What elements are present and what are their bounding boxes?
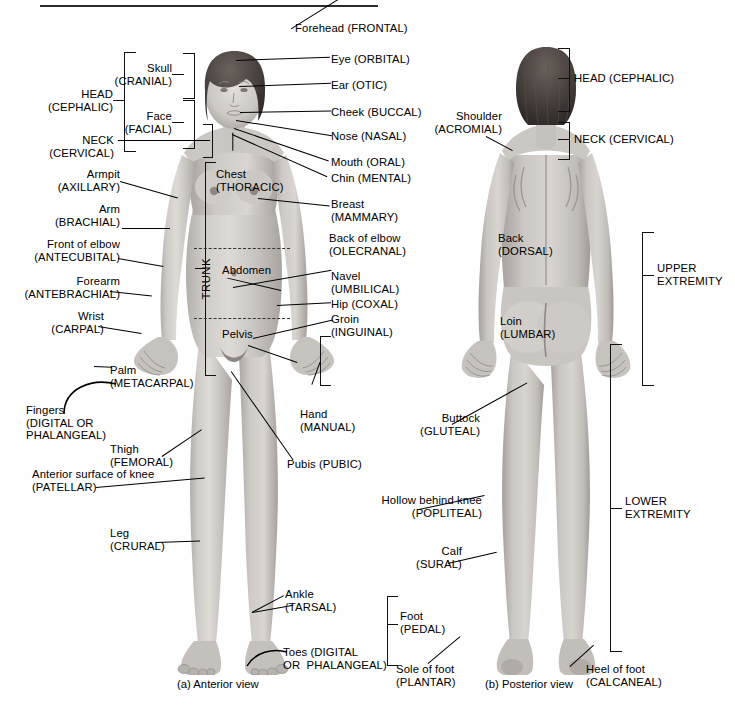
label-sole-of-foot: Sole of foot (PLANTAR) [396, 663, 456, 688]
bracket-neck-cervical-posterior-tick [558, 139, 570, 140]
label-hollow-behind-knee: Hollow behind knee (POPLITEAL) [345, 494, 482, 519]
leader-neck-cervical-anterior [118, 140, 210, 141]
caption-posterior: (b) Posterior view [485, 678, 573, 690]
label-calf-sural: Calf (SURAL) [396, 545, 462, 570]
bracket-hand-manual [320, 336, 331, 386]
bracket-neck-cervical-anterior [203, 124, 213, 158]
bracket-lower-extremity-tick [610, 508, 622, 509]
bracket-head-cephalic-posterior-tick [558, 78, 570, 79]
bracket-lower-extremity [610, 344, 622, 652]
label-lower-extremity: LOWER EXTREMITY [625, 495, 691, 520]
bracket-head-cephalic-tick [113, 100, 125, 101]
label-eye: Eye (ORBITAL) [331, 53, 410, 66]
label-front-of-elbow: Front of elbow (ANTECUBITAL) [10, 238, 120, 263]
divider-thorax-abdomen [194, 248, 290, 249]
bracket-face-facial-tick [172, 122, 184, 123]
bracket-upper-extremity-tick [642, 275, 654, 276]
label-groin: Groin (INGUINAL) [331, 313, 393, 338]
label-arm: Arm (BRACHIAL) [28, 203, 120, 228]
bracket-foot-pedal-tick [387, 624, 398, 625]
label-chin: Chin (MENTAL) [331, 172, 411, 185]
label-shoulder-acromial: Shoulder (ACROMIAL) [422, 110, 502, 135]
label-chest-thoracic: Chest (THORACIC) [216, 168, 284, 193]
caption-anterior: (a) Anterior view [177, 678, 259, 690]
bracket-foot-pedal [387, 596, 398, 666]
label-leg: Leg (CRURAL) [110, 527, 165, 552]
bracket-face-facial [183, 100, 195, 149]
leader-toes-arc [245, 644, 291, 674]
label-heel-of-foot: Heel of foot (CALCANEAL) [586, 663, 662, 688]
label-forehead: Forehead (FRONTAL) [295, 22, 408, 35]
label-nose: Nose (NASAL) [331, 130, 406, 143]
label-hand-manual: Hand (MANUAL) [300, 408, 355, 433]
label-anterior-surface-of-knee: Anterior surface of knee (PATELLAR) [32, 468, 154, 493]
label-trunk: TRUNK [200, 258, 212, 299]
label-wrist: Wrist (CARPAL) [24, 310, 104, 335]
anatomical-regions-figure: HEAD (CEPHALIC) Skull (CRANIAL) Face (FA… [0, 0, 735, 708]
label-back-of-elbow: Back of elbow (OLECRANAL) [329, 232, 406, 257]
label-breast: Breast (MAMMARY) [331, 198, 398, 223]
label-skull-cranial: Skull (CRANIAL) [100, 62, 172, 87]
label-toes: Toes (DIGITAL OR PHALANGEAL) [283, 646, 387, 671]
label-mouth: Mouth (ORAL) [331, 156, 405, 169]
label-navel: Navel (UMBILICAL) [331, 270, 399, 295]
bracket-head-cephalic-posterior [558, 48, 570, 112]
label-pubis: Pubis (PUBIC) [287, 458, 362, 471]
bracket-skull-cranial [183, 53, 195, 99]
label-abdomen: Abdomen [222, 264, 271, 277]
label-fingers: Fingers (DIGITAL OR PHALANGEAL) [26, 404, 106, 442]
label-cheek: Cheek (BUCCAL) [331, 106, 422, 119]
label-armpit: Armpit (AXILLARY) [28, 168, 120, 193]
bracket-skull-cranial-tick [172, 74, 184, 75]
label-neck-cervical-posterior: NECK (CERVICAL) [574, 133, 674, 146]
label-forearm: Forearm (ANTEBRACHIAL) [4, 275, 120, 300]
label-back-dorsal: Back (DORSAL) [498, 232, 553, 257]
leader-palm [94, 366, 112, 368]
label-pelvis: Pelvis [222, 328, 253, 341]
label-ear: Ear (OTIC) [331, 79, 387, 92]
label-loin-lumbar: Loin (LUMBAR) [500, 315, 555, 340]
label-face-facial: Face (FACIAL) [104, 110, 172, 135]
label-hip: Hip (COXAL) [331, 298, 398, 311]
label-neck-cervical-anterior: NECK (CERVICAL) [28, 134, 114, 159]
leader-chest-thoracic [232, 133, 233, 151]
label-head-cephalic-posterior: HEAD (CEPHALIC) [574, 72, 674, 85]
divider-abdomen-pelvis [194, 318, 290, 319]
label-head-cephalic: HEAD (CEPHALIC) [35, 88, 113, 113]
bracket-neck-cervical-posterior [558, 122, 570, 160]
label-ankle: Ankle (TARSAL) [285, 588, 336, 613]
bracket-upper-extremity [642, 232, 654, 386]
leader-arm [122, 228, 170, 229]
label-foot-pedal: Foot (PEDAL) [400, 610, 445, 635]
label-upper-extremity: UPPER EXTREMITY [657, 262, 723, 287]
